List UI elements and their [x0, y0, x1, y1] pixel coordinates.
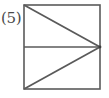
figure-container: (5): [0, 0, 109, 98]
right-midpoint-vertex: [99, 46, 102, 49]
geometry-diagram: [0, 0, 109, 98]
